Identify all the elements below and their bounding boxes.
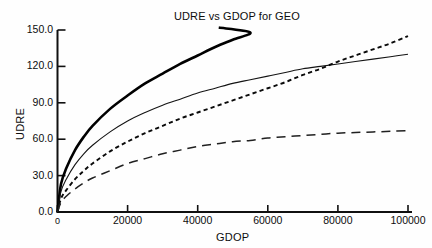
curve-thick-solid (58, 28, 251, 212)
curve-short-dashed (58, 36, 409, 212)
curve-long-dashed (58, 131, 409, 212)
data-curves (58, 28, 409, 212)
plot-area (0, 0, 432, 248)
axis-ticks (58, 30, 409, 212)
chart-figure: UDRE vs GDOP for GEO UDRE GDOP 020000400… (0, 0, 432, 248)
axes-lines (57, 30, 413, 213)
